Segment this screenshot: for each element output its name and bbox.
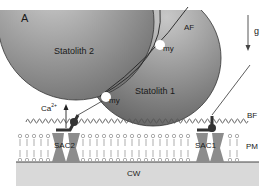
- panel-label: A: [21, 13, 28, 24]
- sac2-label: SAC2: [54, 142, 75, 150]
- bridge-filament-label: BF: [247, 112, 257, 120]
- cell-wall-label: CW: [127, 170, 140, 178]
- statolith-1-label: Statolith 1: [135, 87, 175, 96]
- gravity-arrow: [246, 15, 251, 51]
- tether-2: [78, 100, 104, 115]
- myosin-bottom-label: my: [109, 97, 120, 105]
- calcium-symbol: Ca: [41, 104, 51, 113]
- statolith-2-label: Statolith 2: [54, 47, 94, 56]
- calcium-charge: 2+: [51, 102, 57, 108]
- calcium-arrow: [64, 104, 69, 128]
- plasma-membrane-label: PM: [246, 143, 258, 151]
- gravity-label: g: [254, 27, 259, 36]
- actin-filament-label: AF: [184, 24, 194, 32]
- statolith-gravisensing-diagram: A Statolith 2 Statolith 1 AF my my g Ca2…: [0, 0, 274, 193]
- diagram-canvas: [0, 0, 274, 193]
- sac1-label: SAC1: [195, 142, 216, 150]
- calcium-label: Ca2+: [41, 103, 57, 113]
- myosin-top-label: my: [163, 45, 174, 53]
